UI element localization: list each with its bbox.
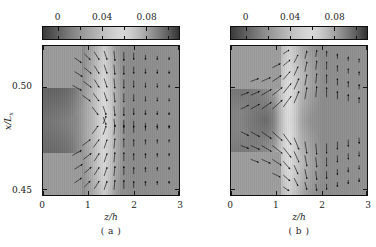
vector-field-a bbox=[43, 46, 179, 195]
colorbar-a bbox=[42, 26, 180, 40]
colorbar-a-ticklabel-0: 0 bbox=[55, 10, 61, 24]
heatmap-a bbox=[43, 46, 179, 195]
xaxis-b-ticklabel-0: 0 bbox=[227, 198, 233, 212]
yaxis-a-ticklabels: 0.50 0.45 bbox=[0, 45, 38, 196]
colorbar-a-ticks bbox=[43, 27, 179, 39]
xaxis-a-label-num: z bbox=[104, 212, 109, 222]
xaxis-b-ticklabel-3: 3 bbox=[365, 198, 371, 212]
colorbar-b-ticks bbox=[231, 27, 367, 39]
xaxis-b-label-den: h bbox=[300, 212, 306, 222]
colorbar-b-ticklabel-2: 0.08 bbox=[325, 10, 345, 24]
subfigure-a: 0 0.04 0.08 x/Lx 0.50 0.45 bbox=[0, 0, 188, 247]
xaxis-a-label: z/h bbox=[42, 212, 180, 222]
plot-area-b[interactable] bbox=[230, 45, 368, 196]
colorbar-b-ticklabels: 0 0.04 0.08 bbox=[230, 10, 368, 24]
plot-area-a[interactable] bbox=[42, 45, 180, 196]
xaxis-a-ticklabel-0: 0 bbox=[39, 198, 45, 212]
colorbar-a-ticklabel-2: 0.08 bbox=[137, 10, 157, 24]
yaxis-a-ticklabel-050: 0.50 bbox=[12, 81, 32, 91]
colorbar-b bbox=[230, 26, 368, 40]
colorbar-a-ticklabel-1: 0.04 bbox=[92, 10, 112, 24]
xaxis-b-label: z/h bbox=[230, 212, 368, 222]
vector-field-b bbox=[231, 46, 367, 195]
xaxis-a-ticklabel-3: 3 bbox=[177, 198, 183, 212]
xaxis-a-ticklabel-2: 2 bbox=[131, 198, 137, 212]
xaxis-b-ticklabel-1: 1 bbox=[273, 198, 279, 212]
xaxis-b-ticklabel-2: 2 bbox=[319, 198, 325, 212]
subfigure-b-caption: ( b ) bbox=[230, 226, 368, 236]
heatmap-b bbox=[231, 46, 367, 195]
subfigure-a-caption: ( a ) bbox=[42, 226, 180, 236]
xaxis-b-label-num: z bbox=[292, 212, 297, 222]
colorbar-a-ticklabels: 0 0.04 0.08 bbox=[42, 10, 180, 24]
xaxis-a-ticklabel-1: 1 bbox=[85, 198, 91, 212]
xaxis-a-ticklabels: 0 1 2 3 bbox=[42, 198, 180, 212]
xaxis-b-ticklabels: 0 1 2 3 bbox=[230, 198, 368, 212]
subfigure-b: 0 0.04 0.08 bbox=[188, 0, 376, 247]
yaxis-a-ticklabel-045: 0.45 bbox=[12, 185, 32, 195]
xaxis-a-label-den: h bbox=[112, 212, 118, 222]
colorbar-b-ticklabel-0: 0 bbox=[243, 10, 249, 24]
figure-container: 0 0.04 0.08 x/Lx 0.50 0.45 bbox=[0, 0, 376, 247]
colorbar-b-ticklabel-1: 0.04 bbox=[280, 10, 300, 24]
